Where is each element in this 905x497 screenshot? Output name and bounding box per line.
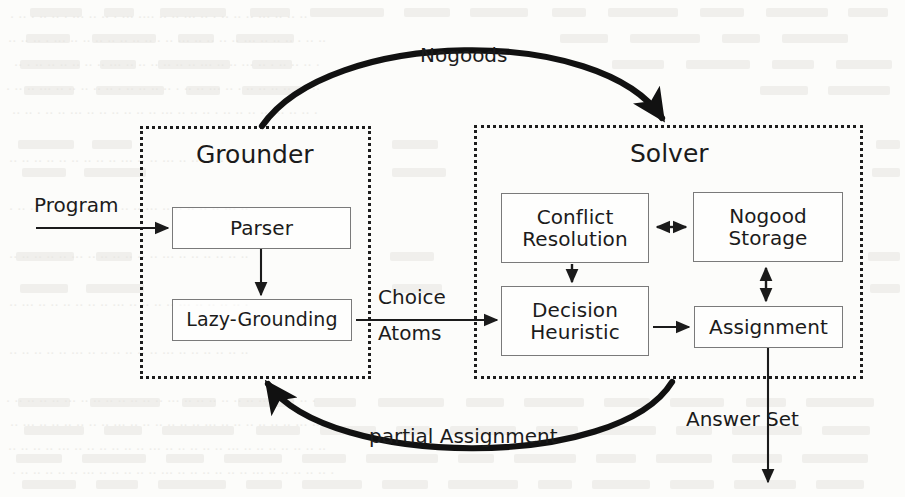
edge-label-partial-assignment: partial Assignment: [369, 425, 558, 448]
edge-label-program: Program: [34, 194, 118, 217]
figure-canvas: · ·· · ·· ·· · ··· ·· ·· · ··· ···· ·· ·…: [0, 0, 905, 497]
edge-label-answer-set: Answer Set: [686, 408, 799, 431]
edge-label-choice-atoms-line1: Choice: [378, 286, 446, 309]
edge-label-choice-atoms-line2: Atoms: [378, 322, 441, 345]
edge-label-nogoods: Nogoods: [420, 44, 507, 67]
